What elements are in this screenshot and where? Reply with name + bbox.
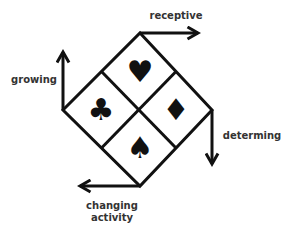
determing-label: determing [222, 130, 282, 142]
changing-activity-label: changing activity [84, 200, 140, 224]
changing-label-line1: changing [84, 200, 140, 212]
changing-label-line2: activity [84, 212, 140, 224]
diamond-icon: ♦ [160, 94, 192, 126]
receptive-label: receptive [140, 10, 212, 22]
growing-label: growing [10, 74, 58, 86]
club-icon: ♣ [85, 94, 117, 126]
heart-icon: ♥ [124, 56, 156, 88]
suit-diamond-diagram [0, 0, 288, 233]
spade-icon: ♠ [124, 132, 156, 164]
